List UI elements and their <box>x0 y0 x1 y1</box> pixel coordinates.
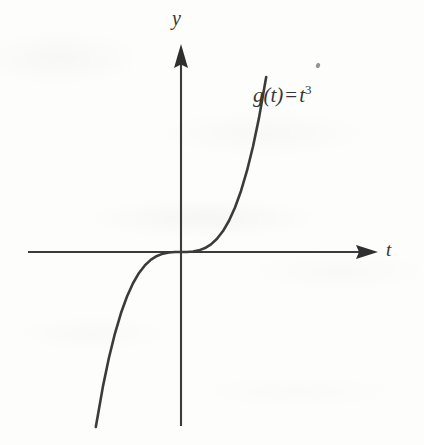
t-axis-label: t <box>386 240 391 259</box>
equation-function-part: g(t) <box>253 83 283 107</box>
y-axis-arrowhead-icon <box>174 44 188 68</box>
equation-exponent: 3 <box>305 82 312 97</box>
t-axis <box>28 245 378 259</box>
y-axis-label: y <box>172 8 181 28</box>
curve-equation-label: g(t)=t3 <box>253 83 312 106</box>
t-axis-arrowhead-icon <box>356 245 378 259</box>
plot-canvas <box>0 0 424 445</box>
cubic-function-figure: y t g(t)=t3 <box>0 0 424 445</box>
equation-operator: = <box>283 83 299 107</box>
y-axis <box>174 44 188 426</box>
